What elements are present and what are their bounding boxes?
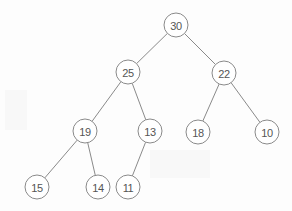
tree-edge-13-11 (132, 142, 145, 176)
tree-edge-25-19 (92, 82, 121, 122)
tree-edge-19-14 (88, 143, 96, 176)
tree-node-10[interactable]: 10 (255, 120, 279, 144)
tree-edge-22-18 (203, 84, 219, 121)
node-label-10: 10 (261, 127, 273, 139)
tree-node-22[interactable]: 22 (212, 61, 236, 85)
node-label-19: 19 (79, 126, 91, 138)
tree-node-19[interactable]: 19 (73, 119, 97, 143)
tree-edge-30-25 (137, 33, 168, 63)
node-label-25: 25 (122, 67, 134, 79)
node-label-15: 15 (31, 182, 43, 194)
tree-node-14[interactable]: 14 (86, 175, 110, 199)
node-label-22: 22 (218, 68, 230, 80)
tree-edge-19-15 (45, 140, 77, 178)
node-label-14: 14 (92, 182, 104, 194)
tree-node-30[interactable]: 30 (164, 13, 188, 37)
node-label-30: 30 (170, 20, 182, 32)
tree-edge-25-13 (132, 83, 146, 120)
tree-node-25[interactable]: 25 (116, 60, 140, 84)
node-label-13: 13 (144, 126, 156, 138)
tree-node-18[interactable]: 18 (186, 120, 210, 144)
tree-edge-22-10 (231, 83, 260, 123)
tree-edge-30-22 (184, 33, 215, 64)
tree-node-13[interactable]: 13 (138, 119, 162, 143)
node-label-18: 18 (192, 127, 204, 139)
tree-diagram-canvas: 30252219131810151411 (0, 0, 292, 211)
tree-graph: 30252219131810151411 (0, 0, 292, 211)
tree-node-11[interactable]: 11 (116, 175, 140, 199)
tree-node-15[interactable]: 15 (25, 175, 49, 199)
node-label-11: 11 (123, 182, 134, 194)
